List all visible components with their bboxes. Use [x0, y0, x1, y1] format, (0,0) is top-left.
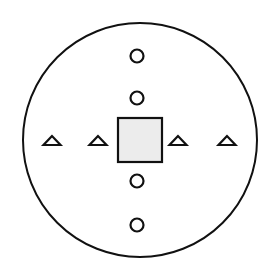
center-square: [118, 118, 162, 162]
diagram-canvas: [0, 0, 273, 277]
